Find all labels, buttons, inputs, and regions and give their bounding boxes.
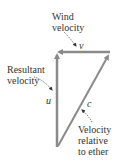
resultant-velocity-label: Resultant velocity [7,64,45,86]
label-line: Velocity [78,124,111,135]
label-line: relative [78,135,111,146]
vector-v-label: v⃗ [79,40,91,51]
label-line: velocity [7,75,45,86]
label-line: to ether [78,146,111,157]
vector-c-label: c⃗ [87,98,99,109]
wind-velocity-label: Wind velocity [52,11,84,33]
velocity-relative-to-ether-label: Velocity relative to ether [78,124,111,157]
label-line: Resultant [7,64,45,75]
label-line: velocity [52,22,84,33]
ether-pointer [82,110,92,122]
label-line: Wind [52,11,84,22]
wind-pointer [64,32,76,46]
vector-u-label: u⃗ [46,95,59,106]
